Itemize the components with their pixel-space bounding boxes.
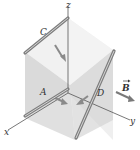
b-field-arrow-head (128, 95, 135, 102)
x-axis-label: x (4, 127, 9, 137)
b-field-label: B (121, 83, 130, 93)
rod-c-label: C (40, 27, 47, 37)
y-axis-label: y (129, 116, 136, 126)
z-axis-label: z (65, 0, 71, 10)
rod-a-label: A (39, 87, 47, 97)
cube-diagram: z x y C A D B (0, 0, 140, 150)
rod-d-label: D (96, 88, 104, 98)
